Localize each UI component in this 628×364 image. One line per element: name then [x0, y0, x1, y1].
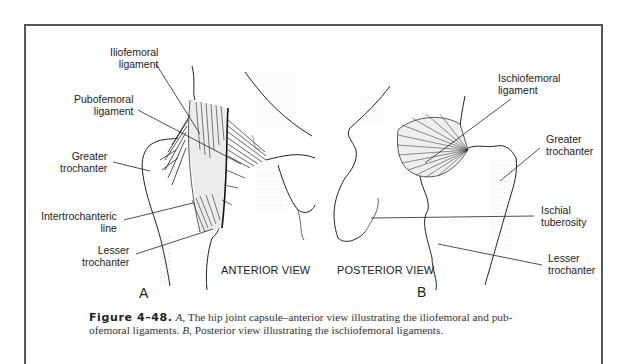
figure-number: Figure 4–48.	[89, 311, 173, 324]
anterior-view-drawing	[142, 66, 315, 290]
label-greater-trochanter-a: Greater trochanter	[60, 150, 107, 174]
label-lesser-trochanter-b: Lesser trochanter	[548, 252, 595, 276]
label-intertrochanteric-line: Intertrochanteric line	[41, 210, 117, 234]
label-pubofemoral-ligament: Pubofemoral ligament	[74, 93, 134, 117]
label-greater-trochanter-b: Greater trochanter	[546, 133, 593, 157]
label-ischiofemoral-ligament: Ischiofemoral ligament	[498, 72, 560, 96]
caption-line2: ofemoral ligaments.	[89, 324, 182, 336]
caption-text-b: , Posterior view illustrating the ischio…	[189, 324, 443, 336]
anterior-view-title: ANTERIOR VIEW	[221, 264, 310, 276]
figure-caption: Figure 4–48. A, The hip joint capsule–an…	[89, 311, 559, 337]
posterior-view-title: POSTERIOR VIEW	[337, 264, 434, 276]
label-iliofemoral-ligament: Iliofemoral ligament	[110, 46, 158, 70]
panel-letter-a: A	[139, 287, 148, 299]
label-ischial-tuberosity: Ischial tuberosity	[541, 204, 587, 228]
posterior-view-drawing	[334, 86, 516, 290]
caption-text-a: , The hip joint capsule–anterior view il…	[182, 311, 512, 323]
label-lesser-trochanter-a: Lesser trochanter	[82, 244, 129, 268]
panel-letter-b: B	[417, 286, 426, 298]
